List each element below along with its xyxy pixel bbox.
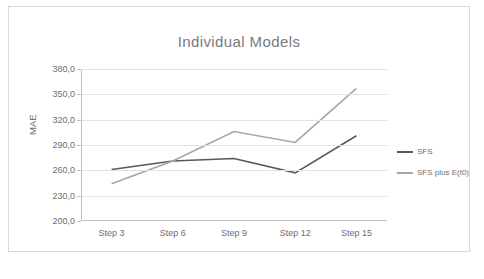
gridline <box>81 196 387 197</box>
gridline <box>81 145 387 146</box>
x-tick-label: Step 12 <box>280 228 311 238</box>
gridline <box>81 170 387 171</box>
y-tick-mark <box>77 94 81 95</box>
gridline <box>81 69 387 70</box>
y-tick-mark <box>77 145 81 146</box>
plot-area: 200,0230,0260,0290,0320,0350,0380,0 Step… <box>81 69 387 221</box>
chart-title: Individual Models <box>9 33 469 50</box>
y-tick-mark <box>77 170 81 171</box>
legend-item-sfs-plus-e-t0: SFS plus E(t0) <box>397 168 467 177</box>
y-tick-mark <box>77 196 81 197</box>
legend-label-sfs-plus-e-t0: SFS plus E(t0) <box>417 168 469 177</box>
y-tick-mark <box>77 221 81 222</box>
x-tick-label: Step 9 <box>221 228 247 238</box>
chart-legend: SFS SFS plus E(t0) <box>397 147 467 189</box>
series-line <box>112 136 357 173</box>
y-tick-label: 230,0 <box>52 191 75 201</box>
y-tick-mark <box>77 69 81 70</box>
x-axis-line <box>81 220 387 221</box>
legend-swatch-sfs <box>397 151 413 153</box>
chart-card: Individual Models MAE 200,0230,0260,0290… <box>8 6 470 252</box>
y-tick-label: 290,0 <box>52 140 75 150</box>
legend-swatch-sfs-plus-e-t0 <box>397 172 413 174</box>
legend-label-sfs: SFS <box>417 147 433 156</box>
x-tick-label: Step 3 <box>99 228 125 238</box>
y-tick-label: 200,0 <box>52 216 75 226</box>
y-tick-label: 260,0 <box>52 165 75 175</box>
y-tick-label: 350,0 <box>52 89 75 99</box>
gridline <box>81 94 387 95</box>
legend-item-sfs: SFS <box>397 147 467 156</box>
y-tick-mark <box>77 120 81 121</box>
x-tick-label: Step 6 <box>160 228 186 238</box>
y-tick-label: 320,0 <box>52 115 75 125</box>
y-axis-label: MAE <box>27 114 38 135</box>
x-tick-label: Step 15 <box>341 228 372 238</box>
gridline <box>81 120 387 121</box>
y-tick-label: 380,0 <box>52 64 75 74</box>
